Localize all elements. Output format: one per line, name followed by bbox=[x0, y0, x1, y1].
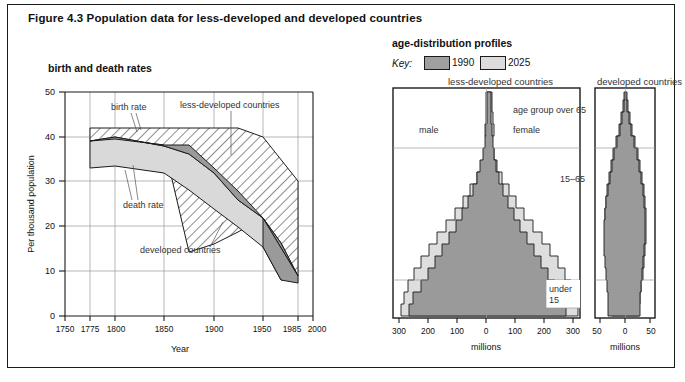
annotation-less-developed: less-developed countries bbox=[180, 100, 280, 110]
annotation-death-rate: death rate bbox=[123, 200, 164, 210]
annotation-developed: developed countries bbox=[140, 245, 221, 255]
annotation-under-15-line1: under bbox=[549, 284, 572, 294]
pyramid-developed-group: 50 0 50 millions bbox=[592, 88, 656, 352]
xtick-2000: 2000 bbox=[308, 324, 327, 334]
xtick-200-right: 200 bbox=[537, 326, 551, 336]
annotation-male: male bbox=[419, 125, 439, 135]
xtick-100-left: 100 bbox=[450, 326, 464, 336]
annotation-15-65: 15–65 bbox=[560, 174, 585, 184]
pyramid-less-developed-group: male female age group over 65 15–65 unde… bbox=[392, 88, 586, 352]
ytick-40: 40 bbox=[45, 132, 55, 142]
xtick-1950: 1950 bbox=[253, 324, 272, 334]
xtick-0-dev: 0 bbox=[623, 326, 628, 336]
left-chart-xlabel: Year bbox=[171, 344, 189, 354]
annotation-over-65: age group over 65 bbox=[513, 105, 586, 115]
left-chart-y-ticks bbox=[59, 92, 65, 316]
xtick-1900: 1900 bbox=[205, 324, 224, 334]
pyramid-dev-x-ticks bbox=[600, 318, 650, 323]
xtick-300-right: 300 bbox=[566, 326, 580, 336]
xtick-1775: 1775 bbox=[81, 324, 100, 334]
pyramid-dev-x-labels: 50 0 50 bbox=[592, 326, 656, 336]
annotation-birth-rate: birth rate bbox=[111, 102, 147, 112]
annotation-under-15-line2: 15 bbox=[549, 295, 559, 305]
xtick-1985: 1985 bbox=[283, 324, 302, 334]
pyramid-ld-x-ticks bbox=[399, 318, 573, 323]
left-chart-group: 50 40 30 20 10 0 1750 1775 1800 1850 190… bbox=[26, 87, 327, 354]
xtick-50-left: 50 bbox=[592, 326, 602, 336]
xtick-0-center: 0 bbox=[484, 326, 489, 336]
ytick-50: 50 bbox=[45, 87, 55, 97]
xtick-1850: 1850 bbox=[155, 324, 174, 334]
xtick-1750: 1750 bbox=[56, 324, 75, 334]
figure-page: Figure 4.3 Population data for less-deve… bbox=[0, 0, 685, 382]
annotation-female: female bbox=[513, 125, 540, 135]
ytick-20: 20 bbox=[45, 221, 55, 231]
ytick-30: 30 bbox=[45, 176, 55, 186]
xtick-50-right: 50 bbox=[646, 326, 656, 336]
pyramid-ld-x-labels: 300 200 100 0 100 200 300 bbox=[392, 326, 580, 336]
xtick-100-right: 100 bbox=[508, 326, 522, 336]
pyramid-dev-xlabel: millions bbox=[610, 342, 641, 352]
ytick-10: 10 bbox=[45, 266, 55, 276]
left-chart-x-ticks bbox=[65, 316, 313, 321]
figure-graphics: 50 40 30 20 10 0 1750 1775 1800 1850 190… bbox=[0, 0, 685, 382]
ytick-0: 0 bbox=[50, 311, 55, 321]
left-chart-x-labels: 1750 1775 1800 1850 1900 1950 1985 2000 bbox=[56, 324, 327, 334]
left-chart-y-labels: 50 40 30 20 10 0 bbox=[45, 87, 55, 321]
left-chart-ylabel: Per thousand population bbox=[26, 155, 36, 253]
xtick-1800: 1800 bbox=[107, 324, 126, 334]
pyramid-ld-xlabel: millions bbox=[471, 342, 502, 352]
xtick-200-left: 200 bbox=[421, 326, 435, 336]
xtick-300-left: 300 bbox=[392, 326, 406, 336]
